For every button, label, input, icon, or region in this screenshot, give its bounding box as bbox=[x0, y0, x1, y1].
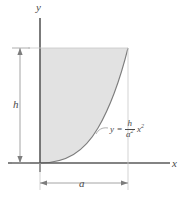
height-dimension-label: h bbox=[13, 99, 19, 110]
width-dimension-arrow-left bbox=[40, 180, 47, 185]
equation-denominator: a2 bbox=[125, 130, 135, 140]
width-dimension-arrow-right bbox=[121, 180, 128, 185]
parabolic-area-figure: y x h a y = h a2 x2 bbox=[0, 0, 188, 202]
y-axis-label: y bbox=[36, 2, 41, 13]
equation-denominator-exponent: 2 bbox=[131, 128, 134, 134]
equation-fraction: h a2 bbox=[125, 119, 135, 139]
equation-lhs: y bbox=[110, 124, 114, 134]
x-axis-label: x bbox=[172, 158, 177, 169]
equation-equals-sign: = bbox=[116, 124, 124, 134]
height-dimension-arrow-bottom bbox=[17, 156, 22, 163]
curve-equation-label: y = h a2 x2 bbox=[110, 119, 144, 139]
width-dimension-label: a bbox=[79, 178, 85, 189]
figure-graphics bbox=[0, 0, 188, 202]
height-dimension-arrow-top bbox=[17, 48, 22, 55]
equation-variable-term: x2 bbox=[136, 124, 144, 134]
equation-variable-exponent: 2 bbox=[141, 123, 144, 129]
